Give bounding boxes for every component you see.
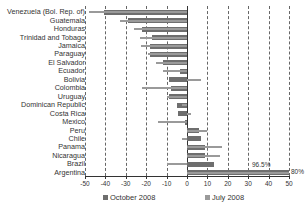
bar-october-2008 <box>169 77 187 82</box>
tick-mark <box>269 176 270 179</box>
bar-july-2008 <box>134 28 187 30</box>
tick-label: -50 <box>75 180 95 187</box>
category-label: Honduras <box>54 25 85 33</box>
category-label: Mexico <box>62 118 85 126</box>
bar-july-2008 <box>187 172 289 174</box>
bar-july-2008 <box>156 62 187 64</box>
zero-line <box>187 6 188 176</box>
bar-chart: Venezuela (Bol. Rep. of)GuatemalaHondura… <box>0 0 308 208</box>
gridline <box>126 6 127 176</box>
bar-july-2008 <box>89 11 187 13</box>
tick-label: 50 <box>279 180 299 187</box>
bar-july-2008 <box>158 121 187 123</box>
legend-label-october: October 2008 <box>110 193 155 202</box>
gridline <box>85 6 86 176</box>
annotation-july-argentina: 96.5% <box>252 161 270 168</box>
gridline <box>269 6 270 176</box>
tick-mark <box>105 176 106 179</box>
tick-label: 10 <box>197 180 217 187</box>
legend-swatch-october <box>103 195 108 200</box>
legend-item-july: July 2008 <box>205 193 244 202</box>
bar-july-2008 <box>163 70 187 72</box>
gridline <box>289 6 290 176</box>
bar-july-2008 <box>182 138 187 140</box>
category-label: Dominican Republic <box>21 101 85 109</box>
tick-mark <box>289 176 290 179</box>
gridline <box>228 6 229 176</box>
tick-mark <box>167 176 168 179</box>
bar-october-2008 <box>178 111 187 116</box>
tick-mark <box>248 176 249 179</box>
bar-july-2008 <box>167 163 187 165</box>
legend-label-july: July 2008 <box>212 193 244 202</box>
bar-july-2008 <box>141 45 187 47</box>
bar-july-2008 <box>142 87 187 89</box>
bar-july-2008 <box>182 104 187 106</box>
bar-july-2008 <box>187 155 220 157</box>
tick-label: 20 <box>218 180 238 187</box>
bar-july-2008 <box>187 113 191 115</box>
bar-july-2008 <box>187 130 207 132</box>
tick-mark <box>228 176 229 179</box>
tick-label: -40 <box>95 180 115 187</box>
bar-july-2008 <box>167 96 187 98</box>
bar-july-2008 <box>148 53 187 55</box>
tick-mark <box>207 176 208 179</box>
tick-mark <box>146 176 147 179</box>
tick-mark <box>126 176 127 179</box>
gridline <box>207 6 208 176</box>
tick-label: 30 <box>238 180 258 187</box>
bar-july-2008 <box>120 20 187 22</box>
gridline <box>105 6 106 176</box>
annotation-october-argentina: 80% <box>291 168 304 175</box>
tick-label: 40 <box>259 180 279 187</box>
tick-label: 0 <box>177 180 197 187</box>
tick-label: -30 <box>116 180 136 187</box>
tick-mark <box>85 176 86 179</box>
bar-july-2008 <box>187 146 222 148</box>
bar-july-2008 <box>140 37 187 39</box>
legend-swatch-july <box>205 195 210 200</box>
tick-mark <box>187 176 188 179</box>
bar-october-2008 <box>187 162 214 167</box>
bar-july-2008 <box>187 79 201 81</box>
gridline <box>248 6 249 176</box>
category-label: Argentina <box>54 169 85 177</box>
bar-october-2008 <box>187 136 201 141</box>
tick-label: -10 <box>157 180 177 187</box>
tick-label: -20 <box>136 180 156 187</box>
legend-item-october: October 2008 <box>103 193 155 202</box>
